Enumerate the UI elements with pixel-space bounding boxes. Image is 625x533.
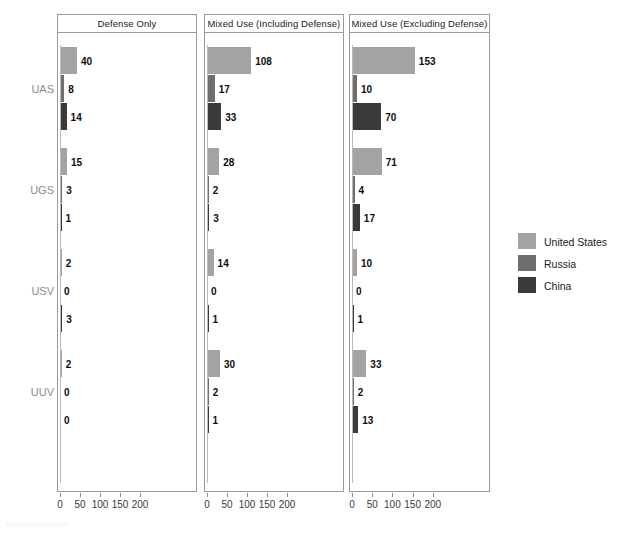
legend-label: Russia (544, 258, 576, 270)
x-axis-tick-label: 50 (367, 499, 378, 510)
chart-panel-1: Defense Only408141531203200 (57, 14, 197, 492)
bar-uas-united-states: 108 (208, 47, 251, 74)
bar-usv-china: 3 (61, 305, 62, 332)
x-axis-tick-label: 100 (239, 499, 256, 510)
y-axis-label-uuv: UUV (31, 386, 54, 398)
bar-uas-russia: 8 (61, 75, 64, 102)
x-axis-tick-label: 150 (404, 499, 421, 510)
x-axis-tick (80, 493, 81, 497)
x-axis-tick-label: 200 (132, 499, 149, 510)
bar-value-label: 153 (419, 55, 436, 66)
bar-usv-united-states: 2 (61, 249, 62, 276)
x-axis-tick (140, 493, 141, 497)
x-axis-tick-label: 0 (57, 499, 63, 510)
bar-value-label: 33 (370, 358, 381, 369)
x-axis-tick (227, 493, 228, 497)
bar-value-label: 2 (213, 386, 219, 397)
bar-uuv-china: 13 (353, 406, 358, 433)
legend-swatch (518, 233, 536, 249)
bar-ugs-united-states: 15 (61, 148, 67, 175)
bar-value-label: 8 (68, 83, 74, 94)
bar-value-label: 14 (71, 111, 82, 122)
bar-value-label: 33 (225, 111, 236, 122)
bar-uuv-united-states: 2 (61, 350, 62, 377)
bar-value-label: 1 (212, 313, 218, 324)
x-axis-tick (392, 493, 393, 497)
bar-uuv-russia: 2 (208, 378, 209, 405)
x-axis-tick-label: 0 (349, 499, 355, 510)
x-axis-tick (267, 493, 268, 497)
x-axis-tick-label: 50 (221, 499, 232, 510)
bar-value-label: 10 (361, 83, 372, 94)
x-axis-tick-label: 50 (74, 499, 85, 510)
bar-value-label: 70 (385, 111, 396, 122)
x-axis-tick (120, 493, 121, 497)
bar-value-label: 2 (66, 358, 72, 369)
legend-label: China (544, 280, 571, 292)
y-axis-label-usv: USV (31, 285, 54, 297)
x-axis-tick-label: 200 (424, 499, 441, 510)
bar-value-label: 17 (364, 212, 375, 223)
x-axis-2: 050100150200 (204, 493, 344, 513)
bar-value-label: 2 (66, 257, 72, 268)
x-axis-tick (207, 493, 208, 497)
bar-uuv-united-states: 33 (353, 350, 366, 377)
bar-value-label: 10 (361, 257, 372, 268)
bar-value-label: 1 (65, 212, 71, 223)
bar-value-label: 3 (66, 184, 72, 195)
panel-plot-body: 1081733282314013021 (204, 33, 344, 492)
legend-label: United States (544, 236, 607, 248)
bar-value-label: 13 (362, 414, 373, 425)
bar-value-label: 17 (219, 83, 230, 94)
plot-area: 408141531203200 (58, 33, 196, 491)
bar-value-label: 0 (64, 414, 70, 425)
y-axis-label-uas: UAS (31, 83, 54, 95)
x-axis-tick (60, 493, 61, 497)
bar-uas-china: 14 (61, 103, 67, 130)
bar-uas-russia: 17 (208, 75, 215, 102)
x-axis-tick-label: 100 (92, 499, 109, 510)
bar-value-label: 0 (64, 285, 70, 296)
chart-legend: United StatesRussiaChina (518, 232, 618, 298)
bar-uas-russia: 10 (353, 75, 357, 102)
y-axis-label-ugs: UGS (30, 184, 54, 196)
chart-panel-2: Mixed Use (Including Defense)10817332823… (204, 14, 344, 492)
x-axis-tick-label: 150 (259, 499, 276, 510)
bar-usv-united-states: 14 (208, 249, 214, 276)
panel-plot-body: 408141531203200 (57, 33, 197, 492)
bar-value-label: 1 (357, 313, 363, 324)
bar-ugs-russia: 3 (61, 176, 62, 203)
bar-value-label: 3 (66, 313, 72, 324)
x-axis-3: 050100150200 (349, 493, 490, 513)
bar-value-label: 108 (255, 55, 272, 66)
bar-value-label: 2 (358, 386, 364, 397)
bar-value-label: 0 (356, 285, 362, 296)
bar-ugs-united-states: 71 (353, 148, 382, 175)
bar-usv-united-states: 10 (353, 249, 357, 276)
bar-ugs-united-states: 28 (208, 148, 219, 175)
y-axis-category-labels: UASUGSUSVUUV (8, 33, 54, 492)
bar-value-label: 0 (64, 386, 70, 397)
bar-value-label: 71 (386, 156, 397, 167)
bar-value-label: 4 (359, 184, 365, 195)
panel-plot-body: 153107071417100133213 (349, 33, 490, 492)
bar-uuv-russia: 2 (353, 378, 354, 405)
bar-ugs-russia: 2 (208, 176, 209, 203)
x-axis-tick (433, 493, 434, 497)
x-axis-tick-label: 0 (204, 499, 210, 510)
plot-area: 1081733282314013021 (205, 33, 343, 491)
x-axis-1: 050100150200 (57, 493, 197, 513)
legend-item-russia: Russia (518, 254, 618, 274)
x-axis-tick-label: 200 (279, 499, 296, 510)
bar-value-label: 40 (81, 55, 92, 66)
x-axis-tick (372, 493, 373, 497)
bar-value-label: 0 (211, 285, 217, 296)
panel-title: Mixed Use (Including Defense) (204, 14, 344, 33)
legend-swatch (518, 277, 536, 293)
scan-artifact (6, 522, 68, 527)
bar-value-label: 30 (224, 358, 235, 369)
bar-uas-united-states: 40 (61, 47, 77, 74)
bar-value-label: 28 (223, 156, 234, 167)
panel-title: Defense Only (57, 14, 197, 33)
bar-uas-china: 70 (353, 103, 381, 130)
